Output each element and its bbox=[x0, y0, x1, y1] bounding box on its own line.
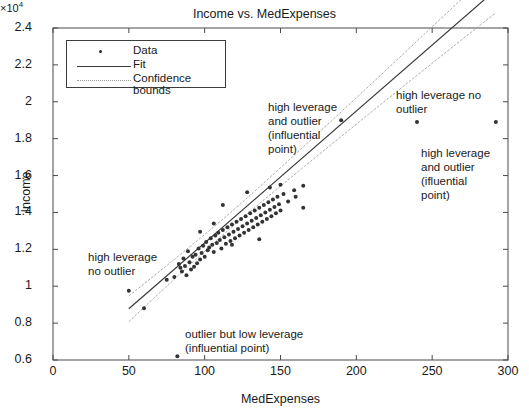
data-point bbox=[265, 217, 269, 221]
data-point bbox=[203, 255, 207, 259]
data-point bbox=[183, 264, 187, 268]
legend-item-confidence-bounds: Confidence bounds bbox=[67, 72, 225, 88]
data-point bbox=[228, 239, 232, 243]
data-point bbox=[415, 120, 419, 124]
data-point bbox=[165, 278, 169, 282]
data-point bbox=[254, 216, 258, 220]
legend-label-fit: Fit bbox=[133, 58, 146, 70]
data-point bbox=[251, 225, 255, 229]
data-point bbox=[244, 214, 248, 218]
legend-label-confidence-bounds: Confidence bounds bbox=[133, 72, 225, 96]
data-point bbox=[282, 192, 286, 196]
chart-legend: Data Fit Confidence bounds bbox=[66, 40, 226, 88]
data-point bbox=[250, 219, 254, 223]
data-point bbox=[218, 238, 222, 242]
data-point bbox=[266, 200, 270, 204]
data-point bbox=[259, 213, 263, 217]
data-point bbox=[194, 253, 198, 257]
data-point bbox=[236, 227, 240, 231]
data-point bbox=[172, 275, 176, 279]
data-point bbox=[221, 203, 225, 207]
data-point bbox=[127, 289, 131, 293]
data-point bbox=[195, 261, 199, 265]
ann-high-leverage-and-outlier-right: high leverage and outlier (ifluential po… bbox=[421, 146, 490, 202]
data-point bbox=[245, 190, 249, 194]
data-point bbox=[175, 354, 179, 358]
legend-marker-dotted-line bbox=[73, 72, 129, 88]
data-point bbox=[216, 231, 220, 235]
data-point bbox=[186, 249, 190, 253]
ann-high-leverage-and-outlier-center: high leverage and outlier (influential p… bbox=[268, 100, 337, 156]
data-point bbox=[242, 231, 246, 235]
data-point bbox=[271, 198, 275, 202]
data-point bbox=[269, 214, 273, 218]
data-point bbox=[301, 184, 305, 188]
ann-outlier-low-leverage: outlier but low leverage (influential po… bbox=[185, 327, 303, 355]
data-point bbox=[245, 222, 249, 226]
data-point bbox=[192, 265, 196, 269]
data-point bbox=[241, 224, 245, 228]
data-point bbox=[257, 237, 261, 241]
data-point bbox=[262, 203, 266, 207]
data-point bbox=[198, 230, 202, 234]
data-point bbox=[209, 236, 213, 240]
data-point bbox=[225, 225, 229, 229]
ann-high-leverage-no-outlier-right: high leverage no outlier bbox=[396, 88, 481, 116]
data-point bbox=[286, 199, 290, 203]
data-point bbox=[210, 243, 214, 247]
data-point bbox=[181, 257, 185, 261]
data-point bbox=[233, 236, 237, 240]
chart-figure: Income vs. MedExpenses ×104 Income MedEx… bbox=[0, 0, 529, 415]
data-point bbox=[277, 202, 281, 206]
data-point bbox=[239, 217, 243, 221]
data-point bbox=[215, 241, 219, 245]
data-point bbox=[212, 250, 216, 254]
data-point bbox=[213, 234, 217, 238]
data-point bbox=[235, 220, 239, 224]
data-point bbox=[207, 245, 211, 249]
data-point bbox=[292, 188, 296, 192]
data-point bbox=[231, 230, 235, 234]
data-point bbox=[184, 273, 188, 277]
ann-high-leverage-no-outlier-left: high leverage no outlier bbox=[88, 250, 157, 278]
data-point bbox=[257, 206, 261, 210]
data-point bbox=[279, 209, 283, 213]
data-point bbox=[274, 211, 278, 215]
data-point bbox=[253, 209, 257, 213]
data-point bbox=[260, 220, 264, 224]
data-point bbox=[222, 235, 226, 239]
data-point bbox=[212, 222, 216, 226]
data-point bbox=[230, 243, 234, 247]
data-point bbox=[177, 262, 181, 266]
data-point bbox=[189, 268, 193, 272]
data-point bbox=[247, 228, 251, 232]
data-point bbox=[142, 306, 146, 310]
data-point bbox=[494, 120, 498, 124]
legend-label-data: Data bbox=[133, 44, 157, 56]
data-point bbox=[301, 206, 305, 210]
data-point bbox=[198, 257, 202, 261]
data-point bbox=[178, 266, 182, 270]
data-point bbox=[221, 228, 225, 232]
data-point bbox=[263, 210, 267, 214]
data-point bbox=[256, 222, 260, 226]
data-point bbox=[339, 118, 343, 122]
data-point bbox=[224, 242, 228, 246]
data-point bbox=[219, 246, 223, 250]
data-point bbox=[275, 195, 279, 199]
data-point bbox=[200, 251, 204, 255]
data-point bbox=[180, 269, 184, 273]
data-point bbox=[279, 183, 283, 187]
data-point bbox=[197, 246, 201, 250]
data-point bbox=[238, 234, 242, 238]
data-point bbox=[227, 233, 231, 237]
data-point bbox=[272, 205, 276, 209]
data-point bbox=[204, 240, 208, 244]
data-point bbox=[268, 208, 272, 212]
data-point bbox=[201, 244, 205, 248]
data-point bbox=[188, 260, 192, 264]
data-point bbox=[268, 186, 272, 190]
data-point bbox=[294, 195, 298, 199]
data-point bbox=[230, 222, 234, 226]
data-point bbox=[248, 211, 252, 215]
